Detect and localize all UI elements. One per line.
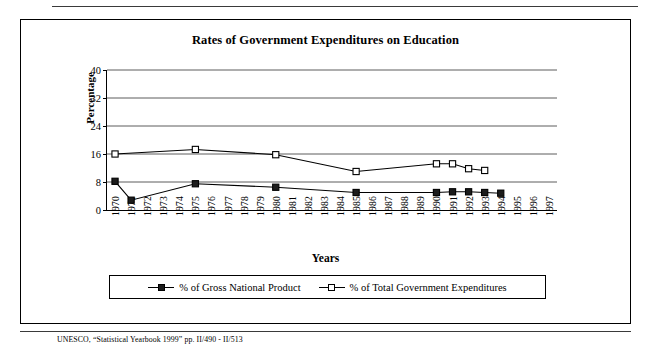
y-tick-mark — [103, 210, 107, 211]
data-point-marker — [112, 151, 118, 157]
filled-square-icon — [148, 283, 174, 292]
legend-label: % of Gross National Product — [179, 282, 300, 293]
data-point-marker — [466, 166, 472, 172]
data-point-marker — [128, 197, 134, 203]
y-tick-label: 0 — [96, 205, 101, 216]
top-divider-rule — [52, 6, 638, 7]
open-square-icon — [319, 283, 345, 292]
data-point-marker — [273, 152, 279, 158]
y-tick-label: 16 — [91, 149, 102, 160]
data-point-marker — [433, 161, 439, 167]
chart-title: Rates of Government Expenditures on Educ… — [21, 33, 630, 48]
chart-frame: Rates of Government Expenditures on Educ… — [20, 19, 631, 324]
data-point-marker — [466, 189, 472, 195]
y-tick-label: 32 — [91, 93, 102, 104]
y-tick-label: 8 — [96, 177, 101, 188]
data-point-marker — [192, 181, 198, 187]
data-point-marker — [112, 178, 118, 184]
data-point-marker — [482, 189, 488, 195]
data-point-marker — [498, 190, 504, 196]
data-point-marker — [273, 184, 279, 190]
y-tick-label: 40 — [91, 65, 102, 76]
data-point-marker — [192, 146, 198, 152]
data-point-marker — [449, 189, 455, 195]
plot-series-svg — [107, 70, 557, 210]
legend-label: % of Total Government Expenditures — [350, 282, 507, 293]
data-point-marker — [433, 189, 439, 195]
data-point-marker — [353, 168, 359, 174]
source-note: UNESCO, “Statistical Yearbook 1999” pp. … — [57, 335, 243, 344]
x-axis-title: Years — [21, 252, 630, 264]
chart-legend: % of Gross National Product% of Total Go… — [109, 275, 546, 299]
legend-entry: % of Total Government Expenditures — [319, 282, 507, 293]
data-point-marker — [353, 189, 359, 195]
series-line — [115, 181, 501, 200]
data-point-marker — [482, 167, 488, 173]
legend-entry: % of Gross National Product — [148, 282, 300, 293]
y-tick-label: 24 — [91, 121, 102, 132]
series-line — [115, 149, 485, 171]
bottom-divider-rule — [20, 331, 631, 332]
data-point-marker — [449, 161, 455, 167]
plot-area: Percentage 0816243240 197019711972197319… — [106, 70, 557, 211]
